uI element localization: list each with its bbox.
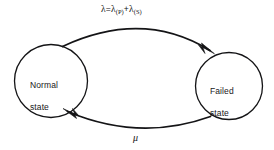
mu-symbol: μ: [133, 132, 138, 143]
transition-label-failure-rate: λ=λ(P)+λ(S): [101, 4, 142, 15]
lambda-s-subscript: (S): [134, 8, 142, 15]
state-label-failed-line1: Failed: [210, 86, 234, 97]
state-label-failed-line2: state: [210, 108, 234, 119]
lambda-p-subscript: (P): [116, 8, 124, 15]
transition-arc-repair[interactable]: [68, 112, 211, 129]
state-label-normal-line2: state: [30, 102, 58, 113]
state-label-failed: Failed state: [210, 75, 234, 130]
state-label-normal-line1: Normal: [30, 80, 58, 91]
transition-arc-failure[interactable]: [63, 29, 211, 51]
state-label-normal: Normal state: [30, 69, 58, 124]
state-transition-diagram: Normal state Failed state λ=λ(P)+λ(S) μ: [0, 0, 274, 150]
transition-label-repair-rate: μ: [133, 132, 138, 143]
